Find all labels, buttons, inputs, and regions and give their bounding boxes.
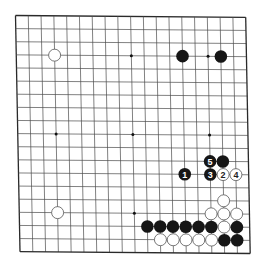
black-stone-icon (231, 221, 244, 234)
white-stone-icon (154, 234, 166, 246)
move-number-label: 3 (208, 170, 213, 180)
white-stone-icon (218, 195, 230, 207)
white-stone (218, 208, 230, 220)
move-number-label: 1 (182, 170, 187, 180)
white-stone-icon (193, 234, 205, 246)
white-stone (218, 221, 230, 233)
black-stone (231, 221, 244, 234)
black-stone (192, 221, 205, 234)
black-stone (217, 155, 230, 168)
black-stone: 1 (178, 168, 191, 181)
white-stone-icon (49, 49, 61, 61)
black-stone (205, 221, 218, 234)
white-stone-icon (218, 208, 230, 220)
white-stone (52, 207, 64, 219)
black-stone-icon (218, 234, 231, 247)
white-stone-icon (52, 207, 64, 219)
black-stone-icon (167, 220, 180, 233)
star-point-icon (207, 55, 210, 58)
white-stone (193, 234, 205, 246)
white-stone: 4 (230, 169, 242, 181)
move-number-label: 4 (233, 170, 238, 180)
black-stone (218, 234, 231, 247)
white-stone-icon (206, 234, 218, 246)
star-point-icon (131, 133, 134, 136)
move-number-label: 5 (208, 157, 213, 167)
black-stone (154, 220, 167, 233)
white-stone (231, 208, 243, 220)
white-stone (154, 234, 166, 246)
white-stone-icon (180, 234, 192, 246)
white-stone: 2 (217, 169, 229, 181)
white-stone (205, 208, 217, 220)
white-stone-icon (218, 221, 230, 233)
white-stone (206, 234, 218, 246)
black-stone-icon (215, 50, 228, 63)
star-point-icon (55, 132, 58, 135)
white-stone-icon (167, 234, 179, 246)
black-stone-icon (205, 221, 218, 234)
black-stone (215, 50, 228, 63)
black-stone (141, 220, 154, 233)
star-point-icon (208, 134, 211, 137)
black-stone: 5 (204, 155, 217, 168)
white-stone (218, 195, 230, 207)
black-stone-icon (192, 221, 205, 234)
black-stone-icon (176, 50, 189, 63)
black-stone-icon (179, 220, 192, 233)
white-stone-icon (231, 208, 243, 220)
black-stone-icon (154, 220, 167, 233)
white-stone (180, 234, 192, 246)
go-board[interactable]: 51324 (0, 0, 267, 269)
black-stone-icon (141, 220, 154, 233)
black-stone (231, 234, 244, 247)
star-point-icon (130, 54, 133, 57)
black-stone (167, 220, 180, 233)
white-stone (167, 234, 179, 246)
white-stone-icon (205, 208, 217, 220)
black-stone (179, 220, 192, 233)
black-stone-icon (217, 155, 230, 168)
black-stone-icon (231, 234, 244, 247)
white-stone (49, 49, 61, 61)
star-point-icon (133, 212, 136, 215)
black-stone (176, 50, 189, 63)
move-number-label: 2 (221, 170, 226, 180)
black-stone: 3 (204, 168, 217, 181)
